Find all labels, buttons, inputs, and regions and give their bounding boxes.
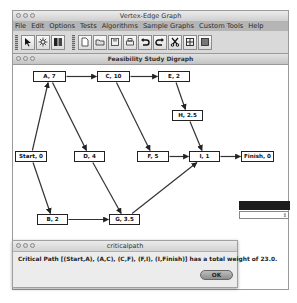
dialog-title-bar[interactable]: criticalpath bbox=[13, 241, 237, 252]
background-image-button[interactable] bbox=[198, 35, 212, 50]
edge-start-b[interactable] bbox=[33, 163, 50, 214]
undo-icon bbox=[140, 37, 150, 47]
redo-icon bbox=[155, 37, 165, 47]
vertex-f[interactable]: F, 5 bbox=[137, 151, 169, 162]
menu-algorithms[interactable]: Algorithms bbox=[102, 21, 138, 31]
edge-start-a[interactable] bbox=[32, 83, 48, 151]
vertex-d[interactable]: D, 4 bbox=[74, 151, 105, 162]
toolbar-grip-handle-2[interactable] bbox=[72, 35, 75, 50]
window-title: Vertex-Edge Graph bbox=[13, 11, 288, 21]
menu-bar: File Edit Options Tests Algorithms Sampl… bbox=[13, 21, 288, 31]
open-folder-icon bbox=[95, 37, 105, 47]
menu-sample-graphs[interactable]: Sample Graphs bbox=[143, 21, 194, 31]
vertex-g[interactable]: G, 3.5 bbox=[109, 214, 140, 225]
print-icon bbox=[125, 37, 135, 47]
vertex-tool-icon bbox=[38, 37, 48, 47]
dialog-title: criticalpath bbox=[13, 241, 237, 251]
status-strip bbox=[239, 201, 290, 210]
redo-button[interactable] bbox=[153, 35, 167, 50]
grid-icon bbox=[185, 37, 195, 47]
critical-path-dialog: criticalpath Critical Path [(Start,A), (… bbox=[12, 240, 238, 288]
file-tool-group bbox=[72, 34, 212, 50]
graph-window-title: Feasibility Study Digraph bbox=[13, 54, 288, 64]
save-disk-icon bbox=[110, 37, 120, 47]
undo-button[interactable] bbox=[138, 35, 152, 50]
edge-g-i[interactable] bbox=[132, 163, 197, 214]
select-tool-button[interactable] bbox=[21, 35, 35, 50]
graph-window-title-bar[interactable]: Feasibility Study Digraph bbox=[13, 54, 288, 65]
grid-button[interactable] bbox=[183, 35, 197, 50]
edge-h-i[interactable] bbox=[190, 122, 202, 151]
stepper-arrows-icon[interactable]: ⇕ bbox=[283, 212, 287, 218]
menu-file[interactable]: File bbox=[15, 21, 26, 31]
cut-scissors-icon bbox=[170, 37, 180, 47]
vertex-b[interactable]: B, 2 bbox=[37, 214, 68, 225]
menu-options[interactable]: Options bbox=[49, 21, 75, 31]
menu-tests[interactable]: Tests bbox=[80, 21, 97, 31]
edge-d-g[interactable] bbox=[93, 163, 121, 214]
edge-tool-icon bbox=[53, 37, 63, 47]
menu-help[interactable]: Help bbox=[248, 21, 263, 31]
open-file-button[interactable] bbox=[93, 35, 107, 50]
cut-button[interactable] bbox=[168, 35, 182, 50]
menu-custom-tools[interactable]: Custom Tools bbox=[199, 21, 243, 31]
vertex-tool-button[interactable] bbox=[36, 35, 50, 50]
ok-button[interactable]: OK bbox=[200, 270, 233, 280]
dialog-message: Critical Path [(Start,A), (A,C), (C,F), … bbox=[18, 256, 277, 262]
vertex-a[interactable]: A, 7 bbox=[33, 71, 66, 82]
select-pointer-icon bbox=[23, 37, 33, 47]
vertex-i[interactable]: I, 1 bbox=[189, 151, 220, 162]
vertex-start[interactable]: Start, 0 bbox=[15, 151, 47, 162]
edge-e-h[interactable] bbox=[176, 83, 185, 110]
new-document-icon bbox=[80, 37, 90, 47]
background-image-icon bbox=[200, 37, 210, 47]
toolbar-grip-handle[interactable] bbox=[15, 35, 18, 50]
edge-c-f[interactable] bbox=[116, 83, 150, 151]
vertex-c[interactable]: C, 10 bbox=[97, 71, 130, 82]
save-file-button[interactable] bbox=[108, 35, 122, 50]
edge-a-d[interactable] bbox=[53, 83, 87, 151]
vertex-e[interactable]: E, 2 bbox=[158, 71, 190, 82]
edge-tool-button[interactable] bbox=[51, 35, 65, 50]
toolbar bbox=[13, 31, 288, 53]
menu-edit[interactable]: Edit bbox=[31, 21, 44, 31]
vertex-h[interactable]: H, 2.5 bbox=[172, 110, 203, 121]
new-file-button[interactable] bbox=[78, 35, 92, 50]
print-button[interactable] bbox=[123, 35, 137, 50]
value-stepper[interactable]: ⇕ bbox=[239, 211, 289, 219]
vertex-finish[interactable]: Finish, 0 bbox=[241, 151, 274, 162]
mode-tool-group bbox=[15, 34, 65, 50]
